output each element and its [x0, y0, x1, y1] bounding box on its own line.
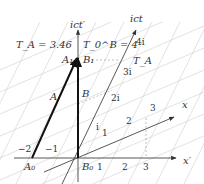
x-tick-3: 3 [150, 103, 156, 113]
worldline-a-label: A [49, 91, 57, 102]
x-tick-2: 2 [126, 116, 132, 126]
x-tick-1: 1 [102, 128, 108, 138]
ict-tick-1: i [96, 122, 99, 132]
point-b0-label: B₀ [81, 161, 93, 172]
ict-tick-4: 4i [136, 37, 145, 47]
worldline-a [32, 58, 77, 158]
ict-tick-2: 2i [111, 93, 120, 103]
x-prime-tick-neg2: −2 [18, 144, 31, 154]
ta-label: T_A [133, 55, 152, 67]
x-prime-tick-3: 3 [143, 162, 149, 172]
x-label: x [182, 99, 188, 110]
x-prime-tick-neg1: −1 [45, 144, 58, 154]
t0b-value-annotation: T_0^B = 4 [83, 39, 138, 51]
worldline-b-label: B [81, 88, 89, 99]
x-prime-tick-1: 1 [97, 162, 103, 172]
ict-tick-3: 3i [123, 67, 132, 77]
grid [0, 0, 204, 184]
ta-value-annotation: T_A = 3.46 [16, 39, 73, 51]
point-a0-label: A₀ [23, 161, 35, 172]
ict-prime-label: ict′ [70, 19, 86, 30]
point-a1-label: A₁ [61, 54, 73, 65]
x-prime-tick-2: 2 [122, 162, 128, 172]
spacetime-diagram: ict′ ict x x′ T_A = 3.46 T_0^B = 4 T_A A… [0, 0, 204, 184]
x-prime-label: x′ [183, 155, 192, 166]
ict-label: ict [130, 13, 144, 24]
point-b1-label: B₁ [82, 54, 94, 65]
